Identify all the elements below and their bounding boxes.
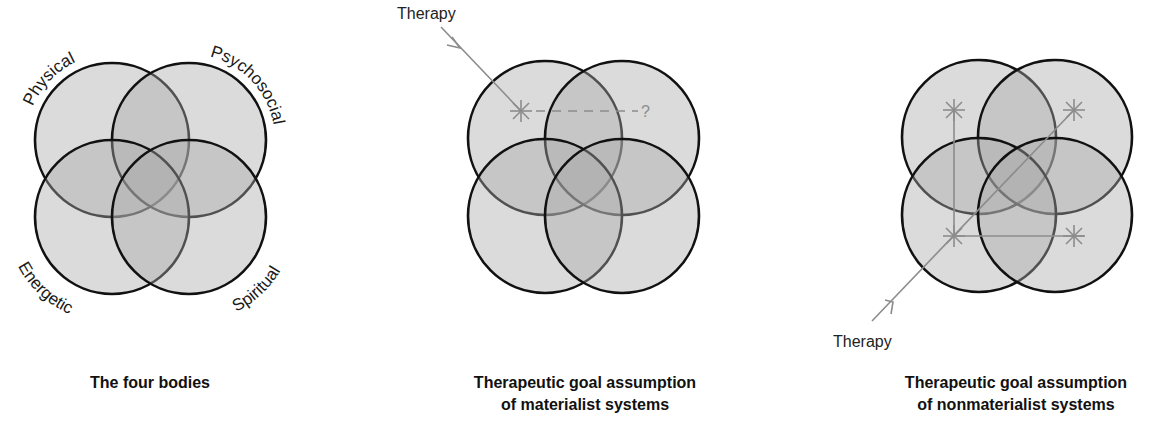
- star-icon-bottom-right: [1063, 225, 1085, 247]
- figure-canvas: Physical Psychosocial Energetic Spiritua…: [0, 0, 1161, 430]
- spiritual-body-circle: [112, 140, 266, 294]
- materialist-diagram: Therapy ?: [397, 5, 699, 293]
- nonmaterialist-diagram: Therapy: [833, 60, 1132, 350]
- arrowhead-icon: [447, 37, 460, 48]
- bottom-right-circle: [545, 139, 699, 293]
- star-icon-bottom-left: [943, 225, 965, 247]
- caption-line: Therapeutic goal assumption: [866, 372, 1161, 394]
- therapy-label: Therapy: [833, 333, 892, 350]
- four-bodies-diagram: Physical Psychosocial Energetic Spiritua…: [14, 42, 288, 318]
- caption-nonmaterialist: Therapeutic goal assumption of nonmateri…: [866, 372, 1161, 416]
- star-icon-top-left: [943, 99, 965, 121]
- star-icon-top-right: [1063, 99, 1085, 121]
- therapy-label: Therapy: [397, 5, 456, 22]
- caption-line: The four bodies: [40, 372, 260, 394]
- question-mark: ?: [641, 103, 650, 120]
- bottom-right-circle: [978, 138, 1132, 292]
- target-star-icon: [510, 100, 532, 122]
- caption-line: Therapeutic goal assumption: [435, 372, 735, 394]
- caption-line: of materialist systems: [435, 394, 735, 416]
- caption-line: of nonmaterialist systems: [866, 394, 1161, 416]
- caption-four-bodies: The four bodies: [40, 372, 260, 394]
- caption-materialist: Therapeutic goal assumption of materiali…: [435, 372, 735, 416]
